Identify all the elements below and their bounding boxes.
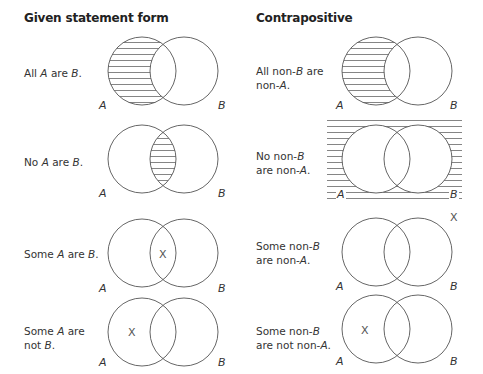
label-a: A — [98, 187, 107, 200]
venn-some-non-b-are-non-a: X A B — [335, 211, 458, 293]
label-b: B — [450, 99, 458, 112]
venn-diagrams: A B A B X A B X A B A B — [0, 0, 483, 374]
label-a: A — [336, 188, 345, 201]
label-a: A — [335, 355, 344, 368]
label-a: A — [98, 356, 107, 369]
x-mark: X — [450, 211, 458, 224]
venn-no-non-b-are-non-a: A B — [327, 118, 462, 202]
x-mark: X — [159, 248, 167, 261]
label-b: B — [450, 355, 458, 368]
label-b: B — [450, 188, 458, 201]
x-mark: X — [128, 326, 136, 339]
label-b: B — [450, 280, 458, 293]
label-a: A — [335, 280, 344, 293]
venn-some-a-are-b: X A B — [98, 219, 226, 295]
label-b: B — [218, 282, 226, 295]
label-a: A — [335, 99, 344, 112]
venn-all-non-b-are-non-a: A B — [334, 30, 458, 112]
label-b: B — [218, 356, 226, 369]
venn-no-a-are-b: A B — [98, 125, 226, 200]
label-b: B — [218, 187, 226, 200]
venn-all-a-are-b: A B — [98, 30, 226, 112]
label-b: B — [218, 99, 226, 112]
venn-some-a-are-not-b: X A B — [98, 298, 226, 369]
venn-some-non-b-are-not-non-a: X A B — [335, 295, 458, 368]
label-a: A — [98, 99, 107, 112]
label-a: A — [98, 282, 107, 295]
x-mark: X — [361, 324, 369, 337]
